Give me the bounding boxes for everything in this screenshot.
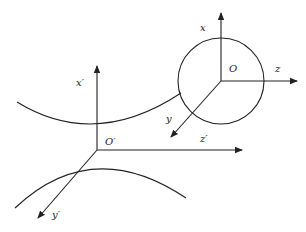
- lower-arc: [15, 169, 186, 208]
- y-prime-axis-label: y′: [51, 209, 61, 220]
- z-axis-label: z: [274, 63, 281, 74]
- upper-arc: [17, 93, 181, 124]
- x-prime-axis-label: x′: [76, 77, 85, 88]
- x-axis-label: x: [200, 22, 206, 33]
- coordinate-frames-diagram: x O z y x′ O′ z′ y′: [0, 0, 306, 232]
- origin-O-prime-label: O′: [105, 136, 116, 147]
- y-axis-label: y: [165, 113, 172, 124]
- z-prime-axis-label: z′: [199, 133, 208, 144]
- origin-O-label: O: [229, 63, 237, 74]
